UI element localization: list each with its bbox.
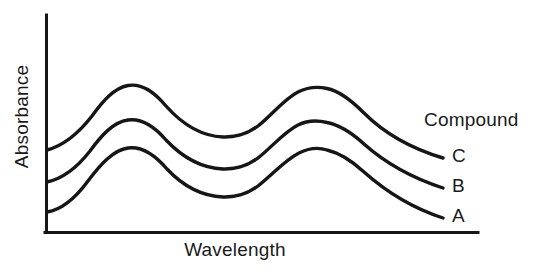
legend-title: Compound: [424, 110, 519, 129]
series-label-c: C: [452, 146, 466, 165]
y-axis-label: Absorbance: [0, 0, 44, 232]
curve-compound-c: [47, 85, 443, 158]
y-axis-label-text: Absorbance: [13, 64, 32, 167]
absorbance-spectrum-chart: Absorbance Wavelength Compound C B A: [0, 0, 545, 276]
x-axis-label: Wavelength: [45, 240, 425, 259]
series-label-b: B: [452, 176, 465, 195]
chart-plot-area: [0, 0, 545, 276]
series-label-a: A: [452, 206, 465, 225]
